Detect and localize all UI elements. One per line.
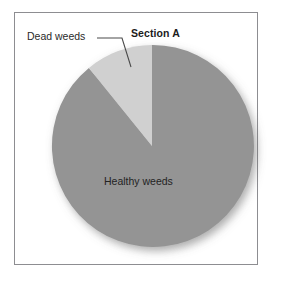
- figure-root: Section A Dead weeds Healthy weeds: [0, 0, 281, 284]
- chart-title: Section A: [131, 28, 180, 39]
- pie-slice-healthy-weeds[interactable]: [52, 45, 254, 247]
- pie-slices-group: [52, 45, 254, 247]
- healthy-weeds-label: Healthy weeds: [104, 176, 173, 187]
- dead-weeds-label: Dead weeds: [27, 31, 85, 42]
- pie-chart: [0, 0, 281, 284]
